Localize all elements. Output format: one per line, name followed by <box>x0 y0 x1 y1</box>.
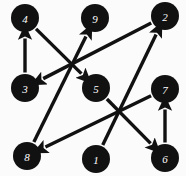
graph-svg-canvas: 492357816 <box>0 0 186 176</box>
node-label-6: 6 <box>162 153 168 165</box>
directed-graph-diagram: 492357816 <box>0 0 186 176</box>
graph-node-8[interactable]: 8 <box>13 142 41 170</box>
node-label-8: 8 <box>24 151 30 163</box>
node-label-5: 5 <box>93 83 99 95</box>
node-label-9: 9 <box>92 13 98 25</box>
node-label-1: 1 <box>93 154 99 166</box>
node-label-2: 2 <box>162 11 168 23</box>
nodes-group: 492357816 <box>11 2 179 173</box>
graph-node-5[interactable]: 5 <box>82 74 110 102</box>
graph-node-3[interactable]: 3 <box>11 74 39 102</box>
node-label-4: 4 <box>22 13 28 25</box>
graph-node-2[interactable]: 2 <box>151 2 179 30</box>
graph-node-1[interactable]: 1 <box>82 145 110 173</box>
edge-7-to-8 <box>45 96 151 147</box>
node-label-7: 7 <box>162 84 168 96</box>
graph-node-4[interactable]: 4 <box>11 4 39 32</box>
graph-node-9[interactable]: 9 <box>81 4 109 32</box>
edge-1-to-2 <box>103 34 156 145</box>
graph-node-7[interactable]: 7 <box>151 75 179 103</box>
edge-4-to-5 <box>36 29 81 74</box>
node-label-3: 3 <box>21 83 28 95</box>
graph-node-6[interactable]: 6 <box>151 144 179 172</box>
